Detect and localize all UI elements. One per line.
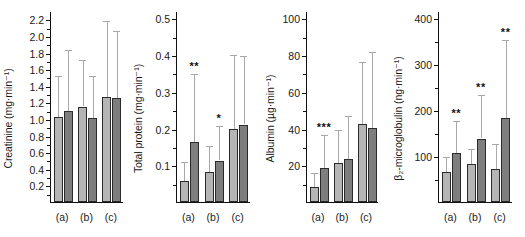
error-bar-light-b bbox=[83, 60, 84, 107]
bar-group-b: * bbox=[205, 11, 224, 202]
bar-dark-c bbox=[368, 128, 377, 202]
y-axis-tick-label: 80 bbox=[288, 50, 300, 62]
y-axis-tick-label: 40 bbox=[288, 124, 300, 136]
y-axis-tick bbox=[302, 19, 308, 20]
bar-light-b bbox=[334, 163, 343, 202]
error-bar-light-a bbox=[184, 162, 185, 181]
y-axis-tick-label: 0.3 bbox=[155, 87, 170, 99]
y-axis-tick bbox=[434, 111, 440, 112]
bar-dark-a bbox=[64, 111, 73, 202]
y-axis-minor-tick bbox=[303, 74, 307, 75]
error-bar-dark-b bbox=[93, 76, 94, 118]
error-cap-dark-b bbox=[216, 126, 223, 127]
plot-area: 20406080100*** bbox=[306, 12, 378, 203]
error-cap-light-c bbox=[230, 55, 237, 56]
error-cap-dark-c bbox=[113, 31, 120, 32]
y-axis-tick bbox=[172, 19, 178, 20]
y-axis-tick-label: 0.6 bbox=[29, 147, 44, 159]
error-cap-dark-b bbox=[89, 76, 96, 77]
error-cap-dark-c bbox=[240, 56, 247, 57]
y-axis-minor-tick bbox=[173, 38, 177, 39]
bar-dark-a bbox=[452, 153, 461, 202]
y-axis-minor-tick bbox=[47, 112, 51, 113]
x-axis-tick-label: (b) bbox=[80, 211, 93, 223]
y-axis-tick-label: 100 bbox=[414, 151, 432, 163]
bar-light-a bbox=[54, 117, 63, 202]
error-cap-dark-c bbox=[502, 40, 509, 41]
bar-light-c bbox=[358, 124, 367, 202]
significance-marker-a: *** bbox=[317, 122, 332, 133]
y-axis-minor-tick bbox=[47, 178, 51, 179]
y-axis-tick bbox=[172, 93, 178, 94]
error-bar-dark-a bbox=[456, 121, 457, 152]
error-bar-dark-c bbox=[506, 40, 507, 118]
error-bar-light-c bbox=[107, 21, 108, 97]
bar-group-a bbox=[54, 11, 73, 202]
x-axis-tick-label: (a) bbox=[312, 211, 325, 223]
significance-marker-b: * bbox=[217, 113, 222, 124]
plot-area: 100200300400****** bbox=[438, 12, 512, 203]
bar-dark-c bbox=[239, 125, 248, 203]
chart-panel-1: Creatinine (mg·min⁻¹)0.20.40.60.81.01.21… bbox=[0, 0, 130, 237]
y-axis-minor-tick bbox=[435, 88, 439, 89]
error-bar-light-b bbox=[338, 130, 339, 162]
y-axis-label: β₂-microglobulin (ng·min⁻¹) bbox=[390, 0, 406, 237]
x-axis-tick-label: (b) bbox=[469, 211, 482, 223]
y-axis-tick bbox=[46, 153, 52, 154]
bar-dark-b bbox=[215, 161, 224, 203]
bar-group-c bbox=[229, 11, 248, 202]
error-bar-light-c bbox=[362, 62, 363, 124]
error-bar-dark-c bbox=[244, 56, 245, 124]
error-bar-dark-a bbox=[68, 50, 69, 111]
y-axis-tick bbox=[434, 65, 440, 66]
error-bar-light-a bbox=[446, 157, 447, 172]
y-axis-tick-label: 100 bbox=[282, 13, 300, 25]
error-cap-light-a bbox=[55, 76, 62, 77]
y-axis-tick-label: 2.2 bbox=[29, 14, 44, 26]
bar-light-c bbox=[491, 169, 500, 202]
y-axis-tick-label: 0.4 bbox=[29, 164, 44, 176]
chart-panel-3: Albumin (µg·min⁻¹)20406080100***(a)(b)(c… bbox=[262, 0, 390, 237]
y-axis-tick bbox=[46, 37, 52, 38]
y-axis-tick bbox=[46, 170, 52, 171]
error-cap-dark-b bbox=[478, 95, 485, 96]
error-cap-dark-a bbox=[321, 135, 328, 136]
y-axis-minor-tick bbox=[173, 148, 177, 149]
error-cap-light-a bbox=[181, 162, 188, 163]
y-axis-tick bbox=[46, 120, 52, 121]
x-axis-tick-label: (a) bbox=[444, 211, 457, 223]
significance-marker-b: ** bbox=[476, 82, 486, 93]
bar-dark-b bbox=[88, 118, 97, 202]
error-cap-dark-a bbox=[453, 121, 460, 122]
significance-marker-c: ** bbox=[501, 27, 511, 38]
y-axis-label: Creatinine (mg·min⁻¹) bbox=[0, 0, 16, 237]
bar-group-a: *** bbox=[310, 11, 329, 202]
y-axis-minor-tick bbox=[303, 111, 307, 112]
y-axis-minor-tick bbox=[173, 74, 177, 75]
y-axis-tick-label: 1.2 bbox=[29, 97, 44, 109]
error-bar-light-c bbox=[496, 144, 497, 168]
error-cap-light-c bbox=[359, 62, 366, 63]
y-axis-tick-label: 20 bbox=[288, 160, 300, 172]
y-axis-tick-label: 1.8 bbox=[29, 48, 44, 60]
y-axis-tick bbox=[172, 130, 178, 131]
y-axis-tick-label: 300 bbox=[414, 59, 432, 71]
bar-light-b bbox=[467, 164, 476, 202]
y-axis-minor-tick bbox=[173, 111, 177, 112]
bar-light-a bbox=[310, 187, 319, 202]
error-bar-light-a bbox=[314, 173, 315, 188]
y-axis-tick bbox=[46, 87, 52, 88]
bar-group-b bbox=[78, 11, 97, 202]
y-axis-tick-label: 0.8 bbox=[29, 131, 44, 143]
y-axis-tick bbox=[46, 103, 52, 104]
y-axis-minor-tick bbox=[47, 128, 51, 129]
y-axis-tick-label: 1.4 bbox=[29, 81, 44, 93]
y-axis-tick bbox=[302, 93, 308, 94]
error-bar-light-b bbox=[471, 149, 472, 164]
y-axis-minor-tick bbox=[303, 185, 307, 186]
y-axis-minor-tick bbox=[303, 148, 307, 149]
error-cap-light-a bbox=[311, 173, 318, 174]
y-axis-tick-label: 0.4 bbox=[155, 50, 170, 62]
x-axis-tick-label: (c) bbox=[360, 211, 372, 223]
error-cap-light-a bbox=[443, 157, 450, 158]
